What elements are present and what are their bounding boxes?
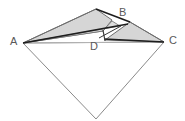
vertex-label-c: C	[169, 35, 177, 46]
figure-canvas	[0, 0, 185, 121]
vertex-label-b: B	[119, 7, 126, 18]
geometry-figure: A B C D	[0, 0, 185, 121]
vertex-label-a: A	[10, 36, 17, 47]
vertex-label-d: D	[90, 41, 98, 52]
